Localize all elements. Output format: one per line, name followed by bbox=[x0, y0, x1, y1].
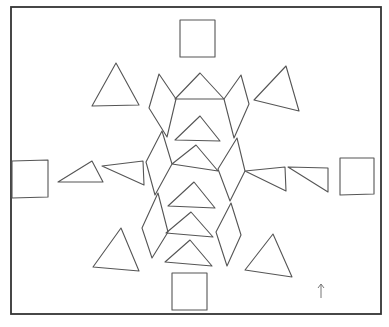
center-triangle-4 bbox=[168, 182, 215, 208]
center-triangle-6 bbox=[165, 240, 212, 266]
center-triangles-group bbox=[165, 73, 224, 266]
top-right-triangle bbox=[254, 66, 299, 111]
shape-figure bbox=[0, 0, 389, 327]
left-inner-triangle-1 bbox=[58, 161, 103, 182]
up-arrow-icon bbox=[318, 284, 324, 298]
top-square bbox=[180, 20, 215, 57]
rhombi-group bbox=[142, 74, 249, 266]
squares-group bbox=[12, 20, 374, 310]
right-rhombus-1 bbox=[224, 75, 249, 138]
left-rhombus-1 bbox=[149, 74, 176, 137]
right-rhombus-3 bbox=[216, 203, 241, 266]
center-triangle-5 bbox=[166, 212, 213, 237]
right-inner-triangle-2 bbox=[288, 167, 328, 192]
center-triangle-3 bbox=[172, 145, 218, 171]
center-triangle-1 bbox=[175, 73, 224, 99]
side-triangles-group bbox=[58, 161, 328, 192]
right-square bbox=[340, 158, 374, 195]
right-inner-triangle-1 bbox=[245, 167, 286, 191]
right-rhombus-2 bbox=[218, 138, 245, 201]
outer-triangles-group bbox=[92, 63, 299, 277]
left-rhombus-3 bbox=[142, 193, 168, 258]
top-left-triangle bbox=[92, 63, 139, 106]
left-square bbox=[12, 160, 48, 198]
bottom-square bbox=[172, 273, 207, 310]
arrow-icon bbox=[318, 284, 324, 298]
figure-frame bbox=[11, 7, 381, 314]
center-triangle-2 bbox=[175, 116, 220, 141]
left-inner-triangle-2 bbox=[102, 161, 144, 185]
bottom-right-triangle bbox=[245, 234, 292, 277]
left-rhombus-2 bbox=[146, 131, 172, 195]
bottom-left-triangle bbox=[93, 228, 139, 271]
